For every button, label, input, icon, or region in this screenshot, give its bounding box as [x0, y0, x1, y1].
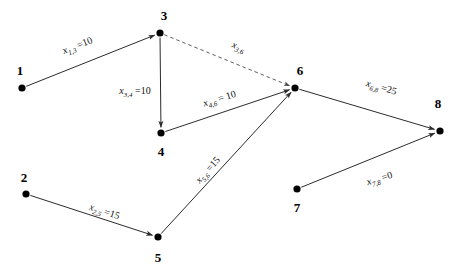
edge-3-6 — [164, 35, 289, 86]
node-dot-4[interactable] — [157, 129, 164, 136]
edge-label-subscript: 3,4 — [124, 91, 133, 99]
node-dot-5[interactable] — [154, 233, 161, 240]
edge-5-6 — [161, 92, 291, 233]
network-flow-diagram: 12345678 x1,3 =10x3,4 =10x3,6x4,6 = 10x2… — [0, 0, 460, 275]
node-label-7: 7 — [294, 201, 301, 214]
node-label-5: 5 — [155, 251, 162, 264]
graph-canvas — [0, 0, 460, 275]
nodes-layer — [18, 29, 443, 240]
edge-3-4 — [160, 38, 161, 128]
node-label-4: 4 — [158, 145, 165, 158]
node-dot-8[interactable] — [436, 127, 443, 134]
node-dot-3[interactable] — [156, 29, 163, 36]
node-label-8: 8 — [435, 97, 442, 110]
node-dot-2[interactable] — [22, 190, 29, 197]
edge-6-8 — [299, 89, 434, 129]
node-label-6: 6 — [297, 64, 304, 77]
node-label-1: 1 — [17, 64, 24, 77]
edge-label-value: =10 — [135, 85, 151, 96]
edges-layer — [26, 35, 434, 235]
node-label-3: 3 — [161, 9, 168, 22]
node-dot-1[interactable] — [18, 84, 25, 91]
node-dot-7[interactable] — [293, 185, 300, 192]
edge-label-3-4: x3,4 =10 — [119, 86, 150, 99]
node-dot-6[interactable] — [291, 84, 298, 91]
node-label-2: 2 — [21, 171, 28, 184]
